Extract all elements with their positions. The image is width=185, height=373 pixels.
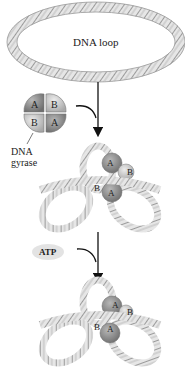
arrow-1 bbox=[76, 82, 98, 132]
subunit-b-top-right: B bbox=[51, 99, 58, 110]
dna-gyrase-diagram bbox=[0, 0, 185, 373]
stage2-subunit-a-top: A bbox=[107, 158, 114, 169]
subunit-a-top-left: A bbox=[31, 99, 38, 110]
subunit-a-bottom-right: A bbox=[51, 117, 58, 128]
stage2-subunit-a-bottom: A bbox=[108, 188, 115, 199]
stage3-subunit-a-bottom: A bbox=[107, 324, 114, 335]
atp-label: ATP bbox=[39, 247, 56, 258]
enzyme-label-line1: DNA bbox=[11, 146, 33, 157]
subunit-b-bottom-left: B bbox=[31, 117, 38, 128]
stage3-subunit-a-top: A bbox=[112, 300, 119, 311]
enzyme-label-line2: gyrase bbox=[11, 157, 37, 168]
stage2-subunit-b-left: B bbox=[94, 183, 100, 194]
stage3-subunit-b-right: B bbox=[127, 307, 133, 318]
stage2-subunit-b-right: B bbox=[127, 167, 133, 178]
dna-loop-label: DNA loop bbox=[73, 37, 119, 48]
stage3-subunit-b-left: B bbox=[94, 322, 100, 333]
